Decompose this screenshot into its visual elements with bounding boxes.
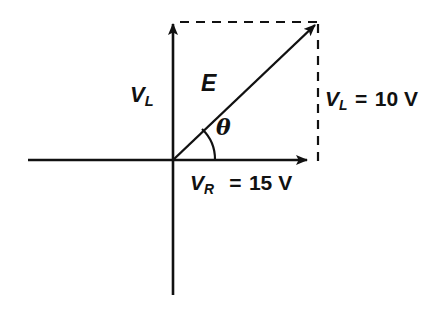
label-angle-theta-symbol: θ xyxy=(216,114,231,140)
label-vl-value: VL=10 V xyxy=(325,88,418,109)
angle-arc xyxy=(202,129,215,160)
label-vl-axis-symbol: V xyxy=(130,82,145,107)
label-vr-value-symbol: V xyxy=(190,171,204,194)
label-vl-value-symbol: V xyxy=(325,87,339,110)
label-vl-axis-subscript: L xyxy=(145,93,154,109)
label-vl-axis: VL xyxy=(130,84,154,106)
label-vr-value-subscript: R xyxy=(204,181,214,197)
phasor-diagram-figure: VL E θ VL=10 V VR=15 V xyxy=(0,0,447,313)
label-resultant-e: E xyxy=(201,72,216,95)
label-vl-value-equals: = xyxy=(355,87,367,110)
phasor-diagram-canvas xyxy=(0,0,447,313)
label-vr-value-number: 15 V xyxy=(249,171,292,194)
label-angle-theta: θ xyxy=(216,116,231,138)
resultant-phasor-e-line xyxy=(173,25,315,160)
label-vl-value-number: 10 V xyxy=(375,87,418,110)
label-vr-value-equals: = xyxy=(229,171,241,194)
label-vr-value: VR=15 V xyxy=(190,172,292,193)
label-resultant-e-symbol: E xyxy=(201,70,216,96)
label-vl-value-subscript: L xyxy=(339,97,347,113)
